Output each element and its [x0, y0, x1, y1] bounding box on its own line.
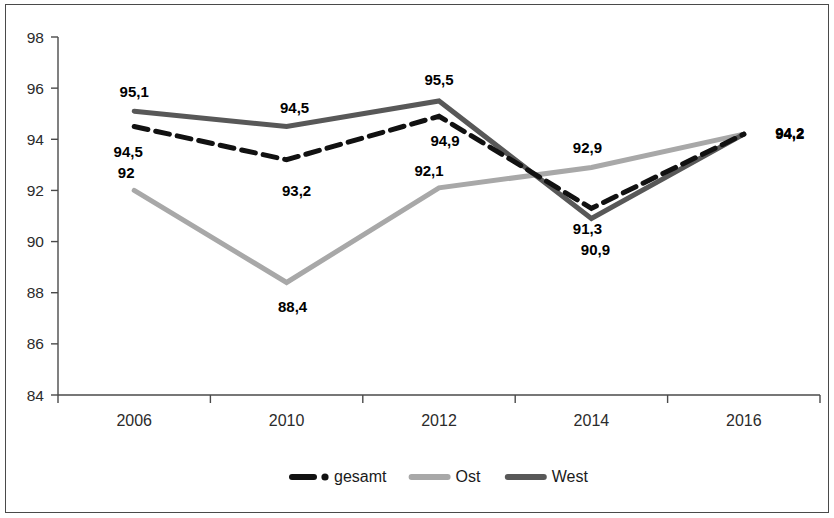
x-tick-label: 2016 — [726, 412, 762, 429]
data-label: 94,5 — [114, 143, 143, 160]
legend-item-ost[interactable]: Ost — [412, 468, 481, 485]
data-label: 88,4 — [278, 298, 308, 315]
chart-legend: gesamtOstWest — [292, 468, 589, 485]
chart-figure: 84868890929496982006201020122014201695,1… — [0, 0, 834, 518]
data-label: 95,5 — [424, 71, 453, 88]
line-chart-canvas: 84868890929496982006201020122014201695,1… — [0, 0, 834, 518]
legend-label: West — [552, 468, 589, 485]
y-axis: 8486889092949698 — [27, 29, 58, 404]
data-label: 92,9 — [573, 139, 602, 156]
legend-item-gesamt[interactable]: gesamt — [292, 468, 387, 485]
y-tick-label: 84 — [27, 387, 45, 404]
y-tick-label: 98 — [27, 29, 44, 46]
data-label: 93,2 — [282, 182, 311, 199]
y-tick-label: 88 — [27, 284, 44, 301]
data-label: 94,5 — [280, 99, 309, 116]
data-label: 90,9 — [581, 241, 610, 258]
x-tick-label: 2012 — [421, 412, 457, 429]
x-tick-label: 2006 — [116, 412, 152, 429]
data-label: 95,1 — [120, 83, 149, 100]
x-tick-label: 2010 — [269, 412, 305, 429]
legend-swatch-dot — [321, 473, 328, 480]
legend-label: gesamt — [334, 468, 387, 485]
data-label: 94,9 — [430, 132, 459, 149]
y-tick-label: 92 — [27, 182, 44, 199]
y-tick-label: 90 — [27, 233, 45, 250]
series-line-ost — [134, 134, 744, 282]
y-tick-label: 96 — [27, 80, 44, 97]
y-tick-label: 86 — [27, 335, 44, 352]
x-axis: 20062010201220142016 — [58, 395, 820, 429]
data-label: 94,2 — [775, 125, 804, 142]
y-tick-label: 94 — [27, 131, 45, 148]
data-label: 91,3 — [573, 220, 602, 237]
data-label: 92,1 — [414, 162, 443, 179]
x-tick-label: 2014 — [574, 412, 610, 429]
legend-item-west[interactable]: West — [508, 468, 589, 485]
legend-label: Ost — [456, 468, 481, 485]
data-label: 92 — [118, 164, 135, 181]
